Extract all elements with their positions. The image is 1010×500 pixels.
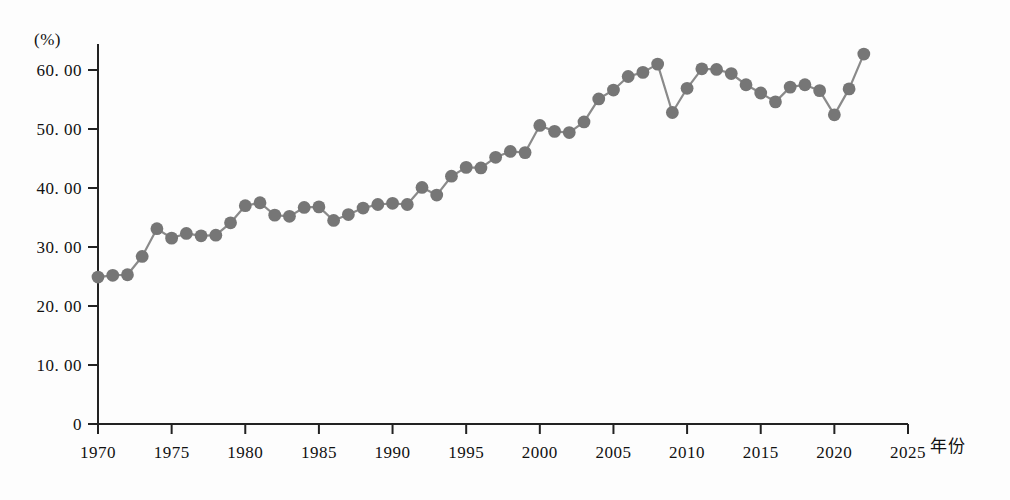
data-point-marker [283,210,296,223]
data-point-marker [504,145,517,158]
data-point-marker [106,269,119,282]
y-tick-label: 60. 00 [37,61,83,80]
data-point-marker [268,209,281,222]
data-point-marker [357,202,370,215]
x-axis-tick-labels: 1970197519801985199019952000200520102015… [80,443,926,462]
data-point-marker [475,162,488,175]
data-point-marker [313,200,326,213]
data-point-marker [695,62,708,75]
data-point-marker [401,198,414,211]
data-point-marker [519,146,532,159]
chart-figure: (%) 年份 010. 0020. 0030. 0040. 0050. 0060… [0,0,1010,500]
data-point-marker [857,48,870,61]
data-series-markers [92,48,871,284]
data-point-marker [489,151,502,164]
data-point-marker [799,78,812,91]
x-tick-label: 2020 [816,443,852,462]
x-tick-label: 2010 [669,443,705,462]
data-point-marker [784,81,797,94]
data-point-marker [92,271,105,284]
data-point-marker [637,66,650,79]
data-point-marker [224,216,237,229]
data-point-marker [327,214,340,227]
y-tick-label: 10. 00 [37,356,83,375]
data-point-marker [681,82,694,95]
y-tick-label: 40. 00 [37,179,83,198]
x-tick-label: 1970 [80,443,116,462]
x-tick-label: 2015 [743,443,779,462]
x-tick-label: 2000 [522,443,558,462]
data-point-marker [578,116,591,129]
data-point-marker [651,58,664,71]
data-point-marker [813,84,826,97]
y-tick-label: 50. 00 [37,120,83,139]
data-point-marker [740,78,753,91]
x-tick-label: 1985 [301,443,337,462]
data-point-marker [710,63,723,76]
data-point-marker [165,232,178,245]
data-point-marker [416,181,429,194]
x-tick-label: 1990 [375,443,411,462]
y-axis-tick-marks [88,70,98,424]
data-point-marker [430,189,443,202]
x-tick-label: 1980 [227,443,263,462]
data-point-marker [195,229,208,242]
data-point-marker [769,95,782,108]
data-point-marker [843,82,856,95]
data-point-marker [121,268,134,281]
data-point-marker [342,208,355,221]
y-tick-label: 0 [73,415,82,434]
data-point-marker [386,197,399,210]
data-point-marker [607,84,620,97]
data-point-marker [239,199,252,212]
x-tick-label: 2025 [890,443,926,462]
x-tick-label: 1995 [448,443,484,462]
data-point-marker [548,125,561,138]
data-point-marker [592,93,605,106]
data-point-marker [209,229,222,242]
y-tick-label: 30. 00 [37,238,83,257]
y-tick-label: 20. 00 [37,297,83,316]
data-point-marker [828,108,841,121]
data-point-marker [180,227,193,240]
x-axis-tick-marks [98,424,908,434]
data-point-marker [136,250,149,263]
data-point-marker [298,201,311,214]
data-point-marker [460,161,473,174]
data-point-marker [754,87,767,100]
x-tick-label: 1975 [154,443,190,462]
data-point-marker [371,198,384,211]
data-point-marker [254,196,267,209]
y-axis-tick-labels: 010. 0020. 0030. 0040. 0050. 0060. 00 [37,61,83,434]
data-point-marker [151,222,164,235]
data-point-marker [666,106,679,119]
data-point-marker [563,126,576,139]
line-chart-plot: 010. 0020. 0030. 0040. 0050. 0060. 00 19… [0,0,1010,500]
data-point-marker [445,170,458,183]
data-point-marker [725,67,738,80]
data-point-marker [622,70,635,83]
data-point-marker [533,119,546,132]
x-tick-label: 2005 [595,443,631,462]
